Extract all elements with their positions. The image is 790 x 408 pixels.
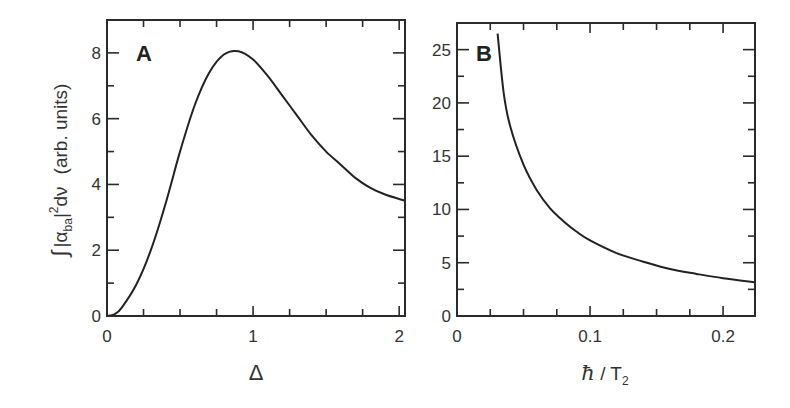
panel-a-chart: A 012 02468 Δ ∫|αba|2dν(arb. units) — [47, 20, 405, 385]
x-tick-label: 0.2 — [711, 327, 735, 346]
y-tick-label: 4 — [92, 175, 101, 194]
y-tick-label: 5 — [442, 254, 451, 273]
panel-a-x-axis-title: Δ — [249, 360, 264, 385]
panel-b-letter: B — [476, 41, 492, 66]
panel-b-x-tick-labels: 00.10.2 — [452, 327, 735, 346]
panel-b-x-axis-title: ħ / T2 — [581, 361, 629, 388]
svg-text:∫|αba|2dν(arb. units): ∫|αba|2dν(arb. units) — [47, 84, 75, 259]
x-tick-label: 0 — [452, 327, 461, 346]
y-tick-label: 20 — [432, 94, 451, 113]
panel-a-y-axis-title: ∫|αba|2dν(arb. units) — [47, 84, 75, 259]
x-tick-label: 0 — [102, 327, 111, 346]
y-tick-label: 0 — [92, 307, 101, 326]
y-tick-label: 15 — [432, 147, 451, 166]
panel-a-x-tick-labels: 012 — [102, 327, 404, 346]
x-tick-label: 2 — [394, 327, 403, 346]
y-tick-label: 8 — [92, 44, 101, 63]
y-tick-label: 2 — [92, 241, 101, 260]
y-tick-label: 10 — [432, 200, 451, 219]
panel-b-y-tick-labels: 0510152025 — [432, 41, 451, 326]
panel-b-curve — [498, 34, 755, 283]
x-tick-label: 0.1 — [578, 327, 602, 346]
panel-a-y-tick-labels: 02468 — [92, 44, 101, 326]
y-tick-label: 0 — [442, 307, 451, 326]
y-tick-label: 6 — [92, 110, 101, 129]
panel-a-letter: A — [136, 41, 152, 66]
x-tick-label: 1 — [248, 327, 257, 346]
data-curve — [107, 51, 405, 316]
figure: A 012 02468 Δ ∫|αba|2dν(arb. units) B 00… — [0, 0, 790, 408]
panel-a-curve — [107, 51, 405, 316]
panel-b-chart: B 00.10.2 0510152025 ħ / T2 — [432, 23, 755, 388]
data-curve — [498, 34, 755, 283]
y-tick-label: 25 — [432, 41, 451, 60]
